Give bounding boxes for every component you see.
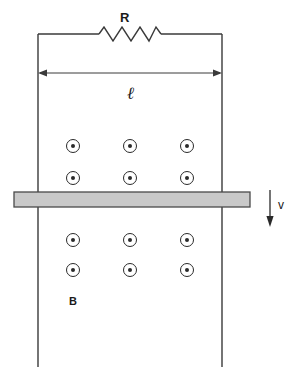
double-headed-arrow-icon [38, 70, 222, 77]
field-out-of-page-dot-icon [124, 264, 137, 277]
length-label: ℓ [127, 85, 134, 102]
circuit-diagram [0, 0, 294, 388]
field-out-of-page-dot-icon [67, 140, 80, 153]
length-arrow-head-right [213, 70, 222, 77]
field-out-of-page-dot-icon [181, 234, 194, 247]
field-out-of-page-dot-icon [67, 172, 80, 185]
down-arrow-icon [266, 190, 273, 227]
resistor-label: R [120, 11, 129, 24]
field-out-of-page-dot-icon [124, 234, 137, 247]
field-out-of-page-dot-icon [124, 140, 137, 153]
field-out-of-page-dot-icon [181, 140, 194, 153]
field-out-of-page-dot-icon [181, 264, 194, 277]
magnetic-field-label: B [69, 296, 77, 307]
velocity-label: v [278, 199, 284, 211]
field-out-of-page-dot-icon [67, 234, 80, 247]
field-out-of-page-dot-icon [124, 172, 137, 185]
resistor-zigzag-icon [99, 27, 161, 41]
field-dot-grid [67, 140, 194, 277]
length-arrow-head-left [38, 70, 47, 77]
velocity-arrow-head [266, 216, 273, 227]
field-out-of-page-dot-icon [67, 264, 80, 277]
physics-figure-canvas: R ℓ B v [0, 0, 294, 388]
field-out-of-page-dot-icon [181, 172, 194, 185]
sliding-conductor-bar [14, 192, 250, 207]
